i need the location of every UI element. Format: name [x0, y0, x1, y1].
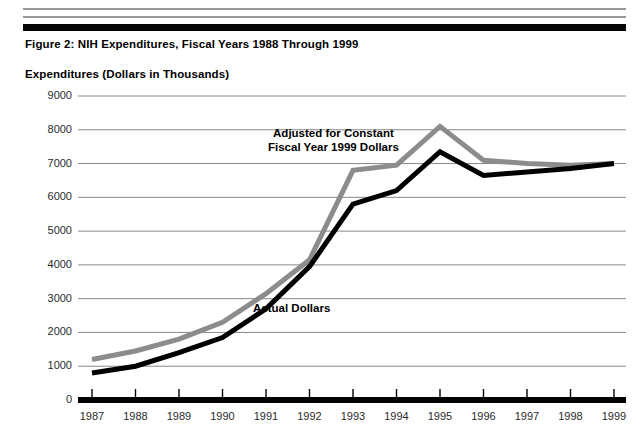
x-axis-baseline — [78, 397, 626, 403]
series-line-adjusted — [92, 126, 614, 359]
x-axis-ticks-group — [92, 389, 614, 397]
y-axis-tick-label: 0 — [30, 393, 72, 405]
series-label-adjusted: Adjusted for Constant Fiscal Year 1999 D… — [268, 126, 399, 154]
y-axis-tick-label: 7000 — [30, 157, 72, 169]
x-axis-tick-label: 1996 — [462, 410, 506, 422]
x-axis-tick-label: 1995 — [418, 410, 462, 422]
x-axis-tick-label: 1991 — [244, 410, 288, 422]
x-axis-tick-label: 1999 — [592, 410, 636, 422]
x-axis-tick-label: 1998 — [549, 410, 593, 422]
series-label-adjusted-line1: Adjusted for Constant — [268, 126, 399, 140]
series-label-adjusted-line2: Fiscal Year 1999 Dollars — [268, 140, 399, 154]
y-axis-tick-label: 3000 — [30, 292, 72, 304]
x-axis-tick-label: 1987 — [70, 410, 114, 422]
x-axis-tick-label: 1988 — [114, 410, 158, 422]
y-axis-tick-label: 5000 — [30, 224, 72, 236]
x-axis-tick-label: 1994 — [375, 410, 419, 422]
y-axis-tick-label: 2000 — [30, 325, 72, 337]
y-axis-tick-label: 6000 — [30, 190, 72, 202]
x-axis-tick-label: 1989 — [157, 410, 201, 422]
x-axis-tick-label: 1992 — [288, 410, 332, 422]
chart-svg — [0, 0, 642, 442]
x-axis-line-group — [78, 397, 626, 403]
x-axis-tick-label: 1997 — [505, 410, 549, 422]
x-axis-tick-label: 1990 — [201, 410, 245, 422]
x-axis-tick-label: 1993 — [331, 410, 375, 422]
chart-plot-area: 0100020003000400050006000700080009000 19… — [0, 0, 642, 442]
y-axis-tick-label: 9000 — [30, 89, 72, 101]
series-label-actual: Actual Dollars — [253, 301, 330, 315]
y-axis-tick-label: 8000 — [30, 123, 72, 135]
y-axis-tick-label: 4000 — [30, 258, 72, 270]
y-axis-tick-label: 1000 — [30, 359, 72, 371]
